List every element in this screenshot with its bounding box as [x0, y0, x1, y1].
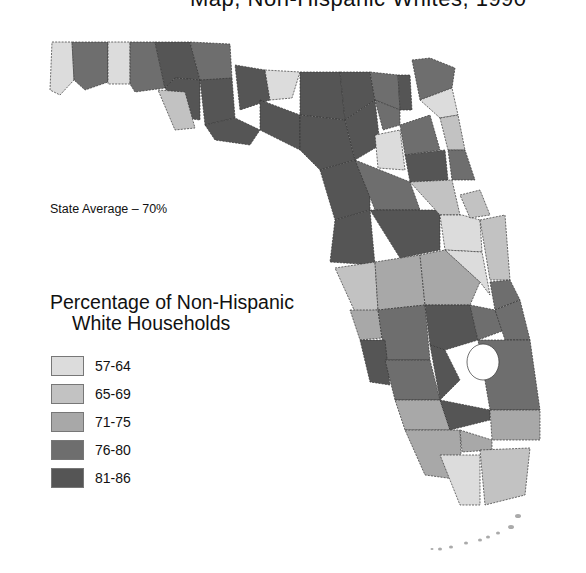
- legend-swatch: [51, 468, 84, 488]
- legend-item: 71-75: [51, 408, 131, 436]
- legend-title: Percentage of Non-Hispanic White Househo…: [50, 292, 294, 334]
- legend-label: 76-80: [95, 442, 131, 458]
- legend: 57-64 65-69 71-75 76-80 81-86: [51, 352, 131, 492]
- legend-label: 65-69: [95, 386, 131, 402]
- legend-label: 57-64: [95, 358, 131, 374]
- legend-swatch: [51, 412, 84, 432]
- legend-swatch: [51, 356, 84, 376]
- legend-item: 76-80: [51, 436, 131, 464]
- legend-swatch: [51, 440, 84, 460]
- legend-swatch: [51, 384, 84, 404]
- legend-title-line1: Percentage of Non-Hispanic: [50, 291, 294, 313]
- legend-label: 71-75: [95, 414, 131, 430]
- legend-item: 65-69: [51, 380, 131, 408]
- state-average-label: State Average – 70%: [50, 202, 167, 216]
- legend-title-line2: White Households: [50, 313, 294, 334]
- legend-item: 81-86: [51, 464, 131, 492]
- legend-item: 57-64: [51, 352, 131, 380]
- legend-label: 81-86: [95, 470, 131, 486]
